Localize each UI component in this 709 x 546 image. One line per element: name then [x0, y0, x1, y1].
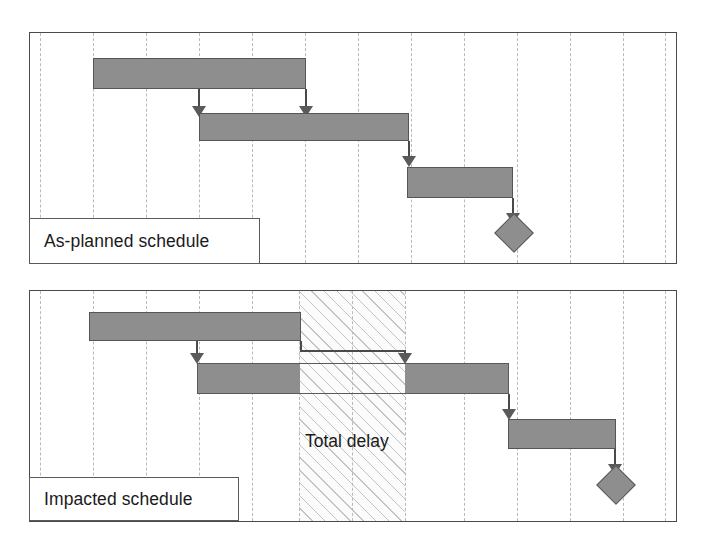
- as-planned-task-bar-3: [407, 167, 513, 198]
- as-planned-task-bar-1: [93, 58, 306, 89]
- total-delay-label: Total delay: [305, 431, 389, 452]
- impacted-panel: Total delay Impacted schedule: [29, 290, 677, 522]
- impacted-task-bar-3: [508, 419, 616, 449]
- gridline: [623, 33, 624, 263]
- impacted-milestone-diamond: [596, 465, 636, 505]
- gridline: [665, 33, 666, 263]
- gridline: [464, 291, 465, 521]
- impacted-task-bar-2: [197, 363, 509, 394]
- as-planned-legend-box: As-planned schedule: [29, 218, 260, 264]
- gridline: [411, 33, 412, 263]
- as-planned-legend-label: As-planned schedule: [44, 231, 209, 252]
- gridline: [570, 33, 571, 263]
- gridline: [570, 291, 571, 521]
- gridline: [352, 291, 353, 521]
- impacted-task-bar-1: [89, 312, 301, 341]
- impacted-task-bar-2-segment-after: [405, 364, 508, 393]
- impacted-legend-box: Impacted schedule: [29, 477, 239, 521]
- impacted-legend-label: Impacted schedule: [44, 489, 193, 510]
- gridline: [464, 33, 465, 263]
- as-planned-milestone-diamond: [494, 213, 534, 253]
- gridline: [517, 291, 518, 521]
- diagram-canvas: As-planned schedule: [0, 0, 709, 546]
- gridline: [358, 33, 359, 263]
- gridline: [405, 291, 406, 521]
- dependency-link-horizontal: [300, 350, 405, 352]
- impacted-task-bar-2-segment-before: [198, 364, 300, 393]
- as-planned-panel: As-planned schedule: [29, 32, 677, 264]
- dependency-arrowhead: [402, 156, 416, 167]
- as-planned-task-bar-2: [199, 113, 409, 141]
- gridline: [665, 291, 666, 521]
